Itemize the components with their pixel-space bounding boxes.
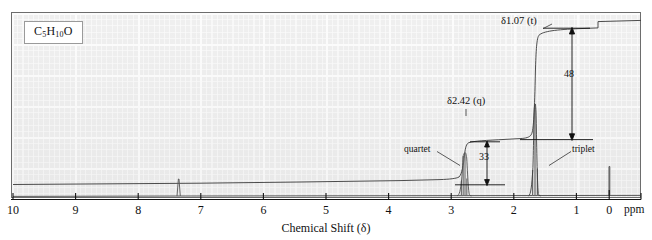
x-tick-label-9: 9	[73, 203, 79, 218]
triplet-integral-value: 48	[564, 69, 574, 79]
x-axis-title: Chemical Shift (δ)	[0, 221, 652, 236]
x-tick-label-0: 0	[606, 203, 612, 218]
x-tick-label-6: 6	[260, 203, 266, 218]
major-gridlines	[12, 13, 640, 197]
x-tick-label-8: 8	[135, 203, 141, 218]
triplet-name-label: triplet	[572, 145, 595, 155]
nmr-spectrum-figure: C5H10O	[0, 0, 652, 240]
x-axis-tick-labels: 10 9 8 7 6 5 4 3 2 1 0	[0, 203, 652, 219]
quartet-name-label: quartet	[404, 145, 430, 155]
x-tick-label-2: 2	[511, 203, 517, 218]
spectrum-plot-area	[11, 12, 641, 198]
quartet-shift-label: δ2.42 (q)	[447, 96, 485, 107]
triplet-shift-label: δ1.07 (t)	[501, 16, 537, 27]
x-tick-label-3: 3	[448, 203, 454, 218]
x-tick-label-5: 5	[323, 203, 329, 218]
molecular-formula-label: C5H10O	[24, 21, 83, 44]
x-tick-label-1: 1	[573, 203, 579, 218]
x-tick-label-4: 4	[386, 203, 392, 218]
x-tick-label-10: 10	[7, 203, 19, 218]
x-tick-label-7: 7	[198, 203, 204, 218]
x-axis-unit-label: ppm	[624, 203, 644, 215]
quartet-integral-value: 33	[479, 152, 489, 162]
